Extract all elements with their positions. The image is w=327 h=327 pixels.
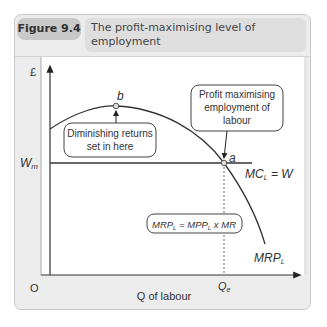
profit-max-text-2: employment of — [204, 102, 270, 113]
qe-label: Qe — [218, 280, 231, 293]
point-b — [113, 103, 119, 109]
point-a — [221, 160, 227, 166]
origin-label: O — [30, 282, 39, 294]
mrp-label: MRPL — [254, 251, 285, 265]
formula-text: MRPL = MPPL x MR — [152, 219, 236, 231]
diminishing-returns-text-1: Diminishing returns — [67, 128, 153, 139]
wm-label: Wm — [20, 156, 38, 171]
profit-max-text-1: Profit maximising — [199, 89, 275, 100]
y-axis-label: £ — [30, 66, 36, 78]
profit-max-diagram: £ O Q of labour Wm Qe MCL = W MRPL b a D… — [0, 0, 327, 327]
diminishing-returns-text-2: set in here — [87, 141, 134, 152]
mc-w-label: MCL = W — [245, 167, 294, 181]
x-axis-label: Q of labour — [137, 290, 192, 302]
point-a-label: a — [229, 151, 236, 165]
profit-max-text-3: labour — [223, 115, 251, 126]
point-b-label: b — [117, 89, 124, 103]
